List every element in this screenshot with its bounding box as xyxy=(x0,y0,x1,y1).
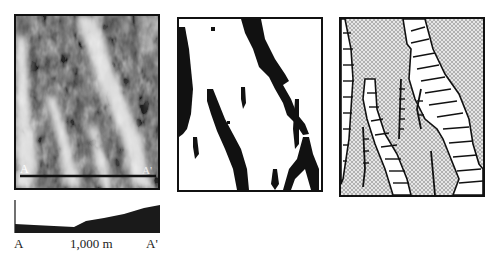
grayscale-image-panel: A A' xyxy=(14,14,160,190)
binary-map xyxy=(179,19,321,190)
interpretation-map-panel xyxy=(339,17,485,197)
profile-start-label: A xyxy=(14,236,23,252)
interpretation-map xyxy=(341,19,483,195)
grayscale-image xyxy=(16,16,158,188)
elevation-profile xyxy=(14,200,160,233)
profile-scale-label: 1,000 m xyxy=(70,236,113,252)
section-end-label: A' xyxy=(142,164,152,176)
section-start-label: A xyxy=(20,162,29,177)
binary-map-panel xyxy=(177,17,323,192)
profile-end-label: A' xyxy=(146,236,158,252)
elevation-profile-graphic xyxy=(14,200,160,233)
